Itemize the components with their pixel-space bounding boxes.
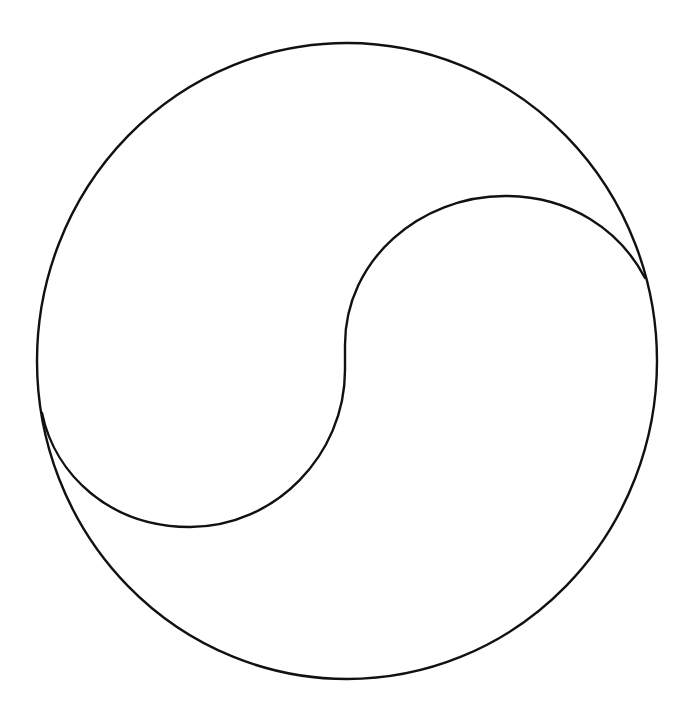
s-curve-divider	[42, 196, 645, 527]
yin-yang-outline	[0, 0, 691, 716]
outer-circle	[37, 43, 657, 679]
diagram-canvas	[0, 0, 691, 716]
